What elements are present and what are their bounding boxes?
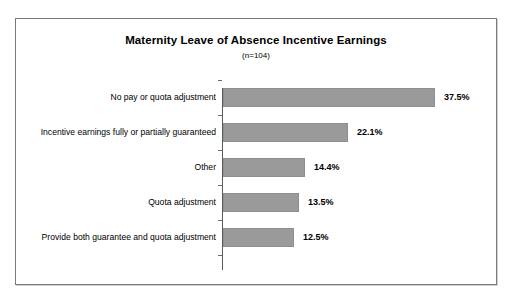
bar-row: Other 14.4% bbox=[16, 158, 498, 193]
axis-tick bbox=[218, 185, 222, 186]
axis-tick bbox=[218, 220, 222, 221]
plot-area: No pay or quota adjustment 37.5% Incenti… bbox=[16, 74, 498, 279]
chart-frame: Maternity Leave of Absence Incentive Ear… bbox=[15, 18, 497, 285]
axis-tick bbox=[218, 150, 222, 151]
bar-value-label: 37.5% bbox=[444, 88, 470, 107]
bar-value-label: 14.4% bbox=[314, 158, 340, 177]
axis-tick bbox=[218, 80, 222, 81]
chart-title: Maternity Leave of Absence Incentive Ear… bbox=[16, 34, 496, 46]
axis-tick bbox=[218, 115, 222, 116]
bar-value-label: 22.1% bbox=[357, 123, 383, 142]
axis-tick bbox=[218, 255, 222, 256]
bar-no-pay-or-quota-adjustment[interactable] bbox=[223, 88, 435, 107]
bar-value-label: 13.5% bbox=[308, 193, 334, 212]
bar-row: Incentive earnings fully or partially gu… bbox=[16, 123, 498, 158]
chart-subtitle: (n=104) bbox=[16, 51, 496, 60]
bar-row: No pay or quota adjustment 37.5% bbox=[16, 88, 498, 123]
bar-row: Provide both guarantee and quota adjustm… bbox=[16, 228, 498, 263]
category-label: Incentive earnings fully or partially gu… bbox=[24, 123, 216, 142]
bar-incentive-earnings-guaranteed[interactable] bbox=[223, 123, 348, 142]
bar-provide-both-guarantee-and-quota-adjustment[interactable] bbox=[223, 228, 294, 247]
bar-value-label: 12.5% bbox=[303, 228, 329, 247]
category-label: Other bbox=[24, 158, 216, 177]
category-label: Quota adjustment bbox=[24, 193, 216, 212]
bar-other[interactable] bbox=[223, 158, 305, 177]
bar-row: Quota adjustment 13.5% bbox=[16, 193, 498, 228]
category-label: No pay or quota adjustment bbox=[24, 88, 216, 107]
bar-quota-adjustment[interactable] bbox=[223, 193, 299, 212]
category-label: Provide both guarantee and quota adjustm… bbox=[24, 228, 216, 247]
